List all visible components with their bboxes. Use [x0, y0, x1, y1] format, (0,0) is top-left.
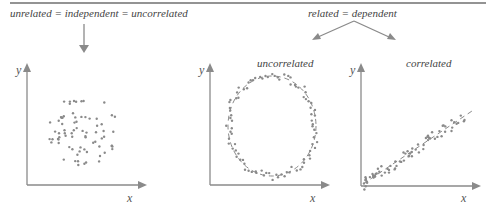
- panel-correlated-title: correlated: [406, 58, 451, 69]
- panel-uncorrelated-title: uncorrelated: [257, 58, 313, 69]
- panel-correlated-axes: [357, 63, 481, 190]
- panel-independent-points: [48, 100, 116, 166]
- panel-correlated-x-label: x: [461, 192, 466, 204]
- right-caption: related = dependent: [308, 8, 397, 19]
- panel-correlated-y-label: y: [350, 64, 355, 76]
- left-caption: unrelated = independent = uncorrelated: [10, 8, 188, 19]
- panel-uncorrelated-y-label: y: [199, 64, 204, 76]
- panel-uncorrelated-points: [225, 73, 318, 181]
- panel-independent-x-label: x: [127, 192, 132, 204]
- diagram-canvas: [0, 0, 495, 206]
- panel-uncorrelated-x-label: x: [310, 192, 315, 204]
- down-arrow-icon: [79, 24, 89, 53]
- branch-arrows-icon: [312, 21, 396, 40]
- panel-independent-y-label: y: [16, 64, 21, 76]
- panel-independent-axes: [23, 63, 147, 189]
- panel-correlated-points: [363, 114, 466, 190]
- circle-fit-line: [228, 76, 316, 176]
